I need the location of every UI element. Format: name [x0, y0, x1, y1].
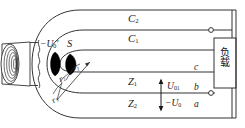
voltage-arrow — [159, 79, 164, 112]
label-source-voltage-symbol: −U — [40, 39, 53, 49]
electrode-left — [51, 52, 61, 76]
label-r1-subscript: 1 — [76, 65, 79, 71]
diagram-canvas — [0, 0, 245, 128]
label-terminal-b: b — [194, 83, 199, 93]
label-u0-symbol: −U — [165, 98, 178, 108]
label-z2-subscript: 2 — [134, 102, 137, 109]
terminal-node-upper[interactable] — [209, 28, 214, 33]
terminal-node-lower[interactable] — [209, 91, 214, 96]
label-capacitance-c1: C1 — [128, 33, 139, 45]
label-radius-r1: r1 — [73, 62, 80, 72]
load-label-line2: 载 — [214, 58, 236, 68]
label-voltage-u01: U01 — [167, 82, 180, 92]
load-box-label: 负 载 — [214, 48, 236, 69]
label-source-voltage-prime: ′ — [56, 39, 58, 49]
label-u0-subscript: 0 — [178, 102, 181, 108]
label-source-voltage: −U0′ — [40, 40, 58, 50]
label-u01-subscript: 01 — [174, 85, 180, 91]
label-c2-subscript: 2 — [135, 17, 138, 24]
label-impedance-z2: Z2 — [128, 99, 137, 110]
label-impedance-z1: Z1 — [128, 77, 137, 88]
label-gap-s: S — [67, 39, 72, 50]
label-capacitance-c2: C2 — [128, 13, 139, 25]
label-c1-subscript: 1 — [135, 37, 138, 44]
label-u01-symbol: U — [167, 81, 174, 91]
figure-container: C2 C1 −U0′ S r1 r2 r3 Z1 Z2 U01 −U0 c b … — [0, 0, 245, 128]
label-voltage-u0: −U0 — [165, 99, 181, 109]
label-terminal-c: c — [194, 63, 198, 73]
third-conductor-wall — [60, 50, 232, 72]
label-z1-subscript: 1 — [134, 80, 137, 87]
label-terminal-a: a — [194, 100, 199, 110]
